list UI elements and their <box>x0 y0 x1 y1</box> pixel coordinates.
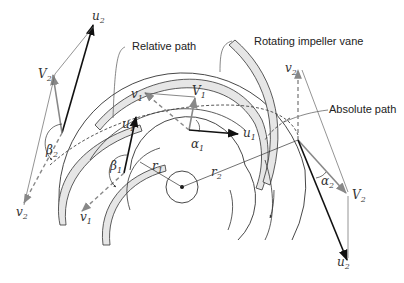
triangle-edge-left <box>24 74 55 205</box>
beta1-label: β1 <box>109 159 122 175</box>
triangle-edge-center <box>145 93 195 97</box>
r2-label: r2 <box>211 165 222 181</box>
impeller-diagram: Relative path Rotating impeller vane Abs… <box>0 0 404 283</box>
v1-vector-top <box>145 93 189 130</box>
absolute-path-leader <box>284 110 328 122</box>
rotating-vane-label: Rotating impeller vane <box>254 35 363 47</box>
inner-arc-3 <box>228 190 233 230</box>
V1-vector <box>189 98 195 130</box>
v1-bottom-label: v1 <box>80 210 92 226</box>
v1-top-label: v1 <box>131 87 143 103</box>
inner-eye-arcs <box>130 117 256 240</box>
V2-left-label: V2 <box>38 67 52 83</box>
alpha2-label: α2 <box>321 174 334 190</box>
relative-path-label: Relative path <box>132 40 196 52</box>
V2-right-label: V2 <box>352 188 366 204</box>
u2-vector-bottom <box>298 140 347 260</box>
r1-label: r1 <box>152 159 163 175</box>
v2-vector-left <box>24 133 62 203</box>
u1-vector-center <box>189 130 238 134</box>
absolute-path-label: Absolute path <box>329 103 396 115</box>
beta2-label: β2 <box>45 143 58 159</box>
triangle-edge-top <box>55 27 93 74</box>
vane-lower <box>102 165 166 245</box>
v2-right-label: v2 <box>285 61 297 77</box>
v2-left-label: v2 <box>16 205 28 221</box>
alpha1-label: α1 <box>191 137 204 153</box>
u1-center-label: u1 <box>243 126 256 142</box>
u2-top-label: u2 <box>92 9 105 25</box>
